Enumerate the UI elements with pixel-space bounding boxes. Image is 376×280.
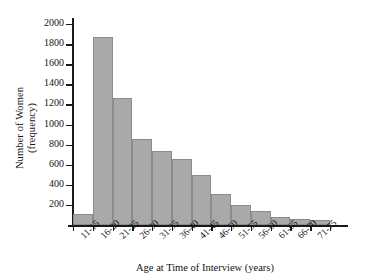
- y-axis-tick-label: 1000: [28, 118, 64, 129]
- x-axis-title: Age at Time of Interview (years): [0, 262, 376, 273]
- y-axis-tick-mark: [66, 104, 72, 105]
- bars-group: [73, 18, 330, 225]
- y-axis-tick-mark: [66, 205, 72, 206]
- histogram-bar: [93, 37, 113, 225]
- y-axis-tick-label: 1400: [28, 77, 64, 88]
- y-axis-tick-label: 1600: [28, 57, 64, 68]
- y-axis-tick-label: 1800: [28, 37, 64, 48]
- histogram-bar: [172, 159, 192, 225]
- y-axis-tick-mark: [66, 84, 72, 85]
- y-axis-tick-mark: [66, 125, 72, 126]
- plot-area: 200400600800100012001400160018002000 11-…: [72, 18, 330, 225]
- y-axis-tick-mark: [66, 44, 72, 45]
- histogram-figure: Number of Women (frequency) 200400600800…: [0, 0, 376, 280]
- histogram-bar: [113, 98, 133, 225]
- y-axis-tick-mark: [66, 185, 72, 186]
- y-axis-tick-label: 400: [28, 178, 64, 189]
- y-axis-tick-label: 2000: [28, 17, 64, 28]
- y-axis-tick-label: 600: [28, 158, 64, 169]
- histogram-bar: [152, 151, 172, 225]
- x-axis-tick-mark: [73, 226, 74, 231]
- y-axis-tick-mark: [66, 165, 72, 166]
- y-axis-tick-mark: [66, 64, 72, 65]
- y-axis-tick-label: 1200: [28, 97, 64, 108]
- histogram-bar: [132, 139, 152, 225]
- y-axis-tick-label: 800: [28, 138, 64, 149]
- histogram-bar: [192, 175, 212, 225]
- y-axis-tick-label: 200: [28, 198, 64, 209]
- y-axis-tick-mark: [66, 145, 72, 146]
- y-axis-tick-mark: [66, 24, 72, 25]
- y-axis-title-line1: Number of Women: [14, 87, 25, 169]
